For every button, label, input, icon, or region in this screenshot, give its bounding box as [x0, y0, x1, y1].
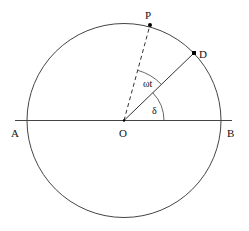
- label-D: D: [199, 48, 207, 60]
- point-O-dot: [123, 119, 125, 121]
- label-A: A: [11, 127, 19, 139]
- label-delta: δ: [152, 105, 157, 116]
- label-O: O: [119, 127, 127, 139]
- radius-OP-dashed: [124, 25, 150, 121]
- label-omega-t: ωt: [143, 78, 153, 89]
- point-D-dot: [192, 51, 196, 55]
- diagram-canvas: P D A O B ωt δ: [0, 0, 249, 231]
- label-B: B: [227, 127, 234, 139]
- label-P: P: [145, 9, 151, 21]
- radius-OD: [124, 53, 194, 121]
- phasor-circle-diagram: P D A O B ωt δ: [0, 0, 249, 231]
- point-P-dot: [148, 23, 152, 27]
